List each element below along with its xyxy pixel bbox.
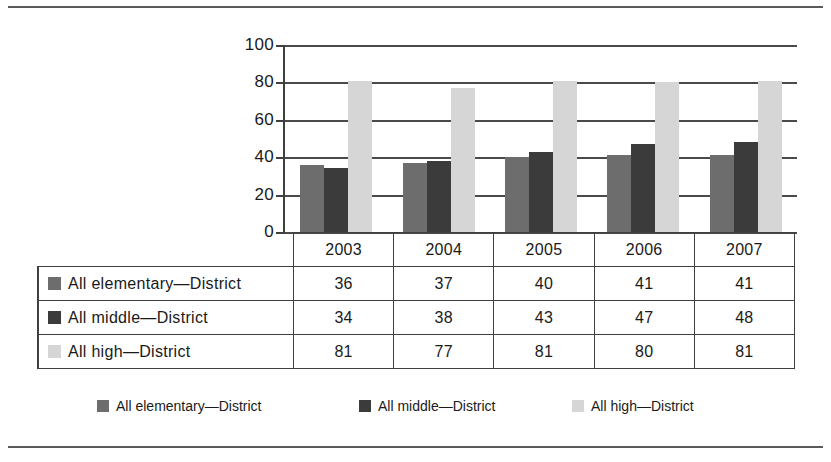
legend-label: All high—District [591,398,694,414]
chart-figure: 020406080100 20032004200520062007All ele… [0,0,831,462]
table-corner-spacer [38,233,294,267]
bar-middle-2006 [631,144,655,232]
table-cell-middle-2003: 34 [294,301,394,335]
bar-high-2007 [758,81,782,232]
legend-swatch-elementary-icon [97,400,109,412]
plot-area [283,45,795,232]
top-divider-rule [8,6,823,8]
bar-elementary-2004 [403,163,427,232]
data-table-element: 20032004200520062007All elementary—Distr… [37,232,795,369]
table-cell-high-2004: 77 [394,335,494,369]
series-swatch-middle-icon [48,311,61,324]
table-cell-middle-2005: 43 [494,301,594,335]
y-axis-label-20: 20 [254,186,274,203]
legend-swatch-high-icon [572,400,584,412]
table-row-label-text: All middle—District [68,309,208,327]
table-row-label-middle: All middle—District [38,301,294,335]
chart-legend: All elementary—DistrictAll middle—Distri… [37,398,795,420]
bottom-divider-rule [8,446,823,448]
table-cell-high-2007: 81 [694,335,794,369]
table-cell-elementary-2004: 37 [394,267,494,301]
bar-high-2003 [348,81,372,232]
table-year-header-2007: 2007 [694,233,794,267]
table-cell-elementary-2006: 41 [594,267,694,301]
table-year-header-2006: 2006 [594,233,694,267]
legend-label: All elementary—District [116,398,261,414]
legend-item-middle: All middle—District [359,398,495,414]
table-row: All elementary—District3637404141 [38,267,795,301]
series-swatch-elementary-icon [48,277,61,290]
bar-high-2004 [451,88,475,232]
table-row: All middle—District3438434748 [38,301,795,335]
y-axis-label-60: 60 [254,111,274,128]
table-row-label-elementary: All elementary—District [38,267,294,301]
table-year-header-2003: 2003 [294,233,394,267]
table-row-label-high: All high—District [38,335,294,369]
y-axis-label-100: 100 [245,36,274,53]
bar-group-2004 [387,45,489,232]
legend-item-elementary: All elementary—District [97,398,261,414]
bar-group-2003 [285,45,387,232]
bar-group-2007 [695,45,797,232]
bar-elementary-2007 [710,155,734,232]
bar-high-2005 [553,81,577,232]
table-row-label-text: All high—District [68,343,190,361]
table-row: All high—District8177818081 [38,335,795,369]
table-year-header-2004: 2004 [394,233,494,267]
y-axis-tick-labels: 020406080100 [226,30,274,220]
y-axis-label-40: 40 [254,148,274,165]
data-table: 20032004200520062007All elementary—Distr… [37,232,795,369]
table-cell-elementary-2003: 36 [294,267,394,301]
bar-group-2006 [592,45,694,232]
bar-middle-2007 [734,142,758,232]
table-year-header-2005: 2005 [494,233,594,267]
table-cell-middle-2007: 48 [694,301,794,335]
table-cell-high-2006: 80 [594,335,694,369]
table-cell-middle-2004: 38 [394,301,494,335]
bar-elementary-2003 [300,165,324,232]
table-cell-elementary-2005: 40 [494,267,594,301]
table-cell-high-2005: 81 [494,335,594,369]
table-cell-middle-2006: 47 [594,301,694,335]
table-cell-high-2003: 81 [294,335,394,369]
legend-swatch-middle-icon [359,400,371,412]
bar-elementary-2005 [505,157,529,232]
table-cell-elementary-2007: 41 [694,267,794,301]
table-row-label-text: All elementary—District [68,275,241,293]
bar-middle-2003 [324,168,348,232]
bar-chart: 020406080100 [0,30,831,235]
table-year-header-row: 20032004200520062007 [38,233,795,267]
legend-item-high: All high—District [572,398,694,414]
bar-high-2006 [655,82,679,232]
y-axis-label-80: 80 [254,73,274,90]
series-swatch-high-icon [48,345,61,358]
bar-group-2005 [490,45,592,232]
legend-label: All middle—District [378,398,495,414]
bar-groups [285,45,797,232]
bar-middle-2004 [427,161,451,232]
bar-middle-2005 [529,152,553,232]
bar-elementary-2006 [607,155,631,232]
